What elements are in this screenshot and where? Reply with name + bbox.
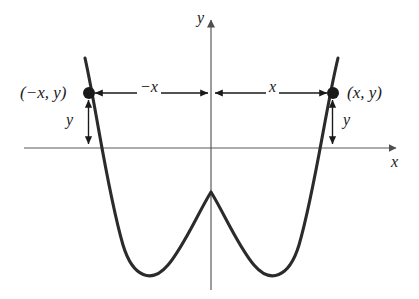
segment-left-label: −x <box>137 79 161 95</box>
even-function-symmetry-figure: (−x, y) (x, y) −x x y y y x <box>0 0 419 299</box>
right-point-marker <box>327 87 339 99</box>
segment-right-label: x <box>266 79 279 95</box>
height-left-label: y <box>66 112 73 128</box>
graph-canvas <box>0 0 419 299</box>
left-point-label: (−x, y) <box>20 84 66 101</box>
left-point-marker <box>83 87 95 99</box>
y-axis-label: y <box>197 10 204 26</box>
height-right-label: y <box>343 112 350 128</box>
right-point-label: (x, y) <box>347 84 382 101</box>
x-axis-label: x <box>391 154 398 170</box>
